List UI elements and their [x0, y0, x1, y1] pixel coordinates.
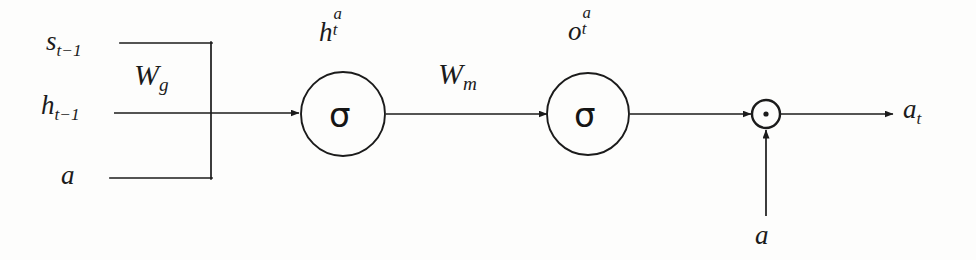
input-label-a-left: a	[61, 162, 75, 189]
weight-label-w-m-base: W	[438, 57, 463, 90]
diagram-edges	[0, 0, 976, 260]
input-label-h-prev-sub: t−1	[55, 105, 80, 124]
input-label-s-prev-base: s	[46, 26, 57, 56]
node-label-h-t-a-base: h	[319, 17, 333, 47]
node-label-h-t-a: hat	[319, 14, 349, 46]
input-label-h-prev-base: h	[41, 90, 55, 120]
node-label-h-t-a-sub: t	[333, 22, 338, 39]
node-label-o-t-a-sub: t	[582, 21, 587, 38]
output-label-a-t-sub: t	[917, 109, 922, 128]
input-label-h-prev: ht−1	[41, 92, 80, 123]
input-label-s-prev: st−1	[46, 28, 82, 59]
weight-label-w-g-sub: g	[159, 74, 169, 95]
sigma-glyph-node-1: σ	[329, 95, 351, 135]
diagram-canvas: st−1 ht−1 a Wg Wm hat oat σ σ a at	[0, 0, 976, 260]
elementwise-product-dot-icon	[763, 111, 768, 116]
weight-label-w-m-sub: m	[463, 73, 477, 94]
weight-label-w-m: Wm	[438, 59, 477, 93]
weight-label-w-g-base: W	[134, 58, 159, 91]
node-label-h-t-a-indices: at	[333, 14, 350, 41]
weight-label-w-g: Wg	[134, 60, 169, 94]
node-label-o-t-a-indices: at	[582, 13, 599, 40]
node-label-o-t-a-base: o	[568, 16, 582, 46]
sigma-glyph-node-2: σ	[574, 95, 596, 135]
input-label-a-bottom: a	[755, 222, 769, 249]
output-label-a-t-base: a	[903, 94, 917, 124]
output-label-a-t: at	[903, 96, 921, 127]
input-label-s-prev-sub: t−1	[57, 41, 82, 60]
node-label-o-t-a: oat	[568, 13, 598, 45]
